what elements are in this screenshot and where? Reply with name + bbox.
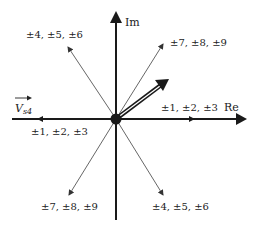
imag-axis-arrow-icon xyxy=(110,11,122,23)
real-axis-label: Re xyxy=(224,101,239,114)
imag-axis-label: Im xyxy=(125,16,140,29)
real-axis-arrow-icon xyxy=(236,113,247,125)
vector-lower-right xyxy=(116,119,163,195)
label-lower-left: ±7, ±8, ±9 xyxy=(41,201,98,212)
space-vector-diagram: Im Re ±1, ±2, ±3 ±1, ±2, ±3 ±4, ±5, ±6 ±… xyxy=(0,0,257,231)
label-lower-right: ±4, ±5, ±6 xyxy=(152,201,209,212)
vector-right-arrow-icon xyxy=(189,116,195,122)
vector-upper-right xyxy=(116,44,163,119)
label-upper-left: ±4, ±5, ±6 xyxy=(26,29,83,40)
origin-dot xyxy=(111,114,122,125)
label-right: ±1, ±2, ±3 xyxy=(161,102,218,113)
vector-vs4-label: V s4 xyxy=(15,96,32,117)
label-upper-right: ±7, ±8, ±9 xyxy=(170,37,227,48)
vector-left-arrow-icon xyxy=(37,116,43,122)
overarrow-icon xyxy=(27,96,32,101)
vector-upper-left xyxy=(68,47,116,119)
label-left: ±1, ±2, ±3 xyxy=(31,126,88,137)
svg-text:s4: s4 xyxy=(23,107,32,116)
reference-vector xyxy=(116,79,169,119)
real-axis xyxy=(12,113,247,125)
